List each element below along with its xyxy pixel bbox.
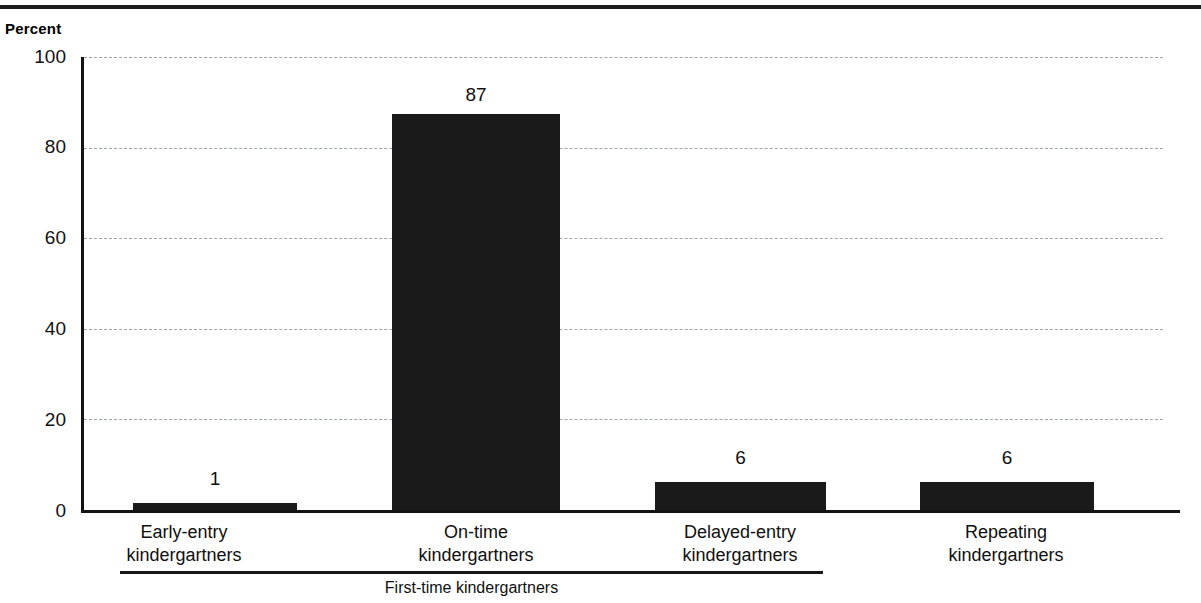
y-axis-line: [81, 57, 84, 513]
x-label-line1: On-time: [345, 521, 607, 544]
x-label-line2: kindergartners: [609, 544, 871, 567]
x-category-label-early-entry: Early-entry kindergartners: [53, 521, 315, 567]
y-tick-100: 100: [6, 47, 66, 66]
bar-value-early-entry: 1: [133, 469, 297, 488]
x-label-line2: kindergartners: [345, 544, 607, 567]
y-tick-60: 60: [6, 228, 66, 247]
x-axis-line: [81, 510, 1180, 513]
x-label-line1: Early-entry: [53, 521, 315, 544]
x-label-line1: Repeating: [875, 521, 1137, 544]
y-axis-tick-labels: 100 80 60 40 20 0: [0, 57, 66, 513]
bar-delayed-entry-kindergartners[interactable]: [655, 482, 826, 510]
group-bracket-rule: [120, 571, 823, 574]
group-bracket-label: First-time kindergartners: [120, 578, 823, 598]
bar-value-delayed-entry: 6: [655, 448, 826, 467]
gridline-80: [84, 148, 1163, 149]
bar-value-repeating: 6: [920, 448, 1094, 467]
gridline-20: [84, 419, 1163, 420]
x-label-line2: kindergartners: [875, 544, 1137, 567]
plot-area: 1 87 6 6: [81, 57, 1180, 513]
y-tick-20: 20: [6, 410, 66, 429]
x-category-label-repeating: Repeating kindergartners: [875, 521, 1137, 567]
y-axis-title: Percent: [5, 20, 61, 38]
y-tick-80: 80: [6, 137, 66, 156]
x-category-label-delayed-entry: Delayed-entry kindergartners: [609, 521, 871, 567]
bar-on-time-kindergartners[interactable]: [392, 114, 560, 510]
gridline-60: [84, 238, 1163, 239]
x-category-label-on-time: On-time kindergartners: [345, 521, 607, 567]
gridline-100: [84, 57, 1163, 58]
bar-early-entry-kindergartners[interactable]: [133, 503, 297, 510]
bar-repeating-kindergartners[interactable]: [920, 482, 1094, 510]
y-tick-40: 40: [6, 319, 66, 338]
y-tick-0: 0: [6, 501, 66, 520]
x-label-line1: Delayed-entry: [609, 521, 871, 544]
top-divider-rule: [0, 5, 1201, 9]
gridline-40: [84, 329, 1163, 330]
bar-value-on-time: 87: [392, 85, 560, 104]
x-label-line2: kindergartners: [53, 544, 315, 567]
